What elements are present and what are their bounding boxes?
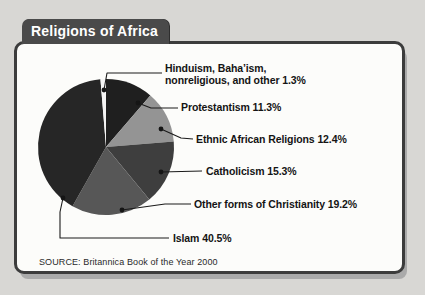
figure-title: Religions of Africa: [31, 23, 158, 39]
source-note: SOURCE: Britannica Book of the Year 2000: [39, 257, 218, 267]
slice-label-ethnic-african-religions: Ethnic African Religions 12.4%: [196, 133, 347, 146]
slice-label-protestantism: Protestantism 11.3%: [181, 101, 281, 114]
slice-label-line: Hinduism, Baha’ism,: [165, 62, 306, 75]
slice-label-other-christianity: Other forms of Christianity 19.2%: [194, 198, 357, 211]
slice-label-hinduism-bahaism-nonreligious-other: Hinduism, Baha’ism,nonreligious, and oth…: [165, 62, 306, 87]
slice-labels: Protestantism 11.3%Ethnic African Religi…: [0, 0, 425, 295]
figure-title-tab: Religions of Africa: [22, 19, 169, 44]
slice-label-line: nonreligious, and other 1.3%: [165, 74, 306, 87]
slice-label-catholicism: Catholicism 15.3%: [206, 165, 297, 178]
slice-label-islam: Islam 40.5%: [173, 232, 231, 245]
